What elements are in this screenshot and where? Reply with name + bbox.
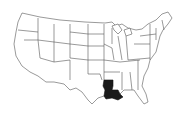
states — [14, 12, 172, 104]
us-map — [0, 0, 182, 117]
